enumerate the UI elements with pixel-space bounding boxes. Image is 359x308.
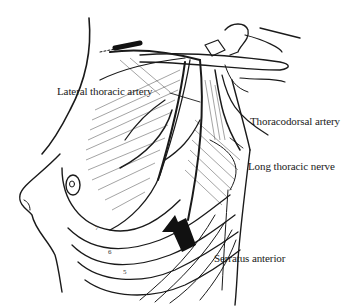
rib-number-5: 5 (123, 268, 127, 276)
rib-number-6: 6 (108, 248, 112, 256)
label-serratus-anterior: Serratus anterior (214, 252, 285, 264)
illustration-drawing (0, 0, 359, 308)
label-lateral-thoracic-artery: Lateral thoracic artery (57, 85, 152, 97)
rib-number-7: 7 (95, 224, 99, 232)
anatomy-illustration: Lateral thoracic artery Thoracodorsal ar… (0, 0, 359, 308)
label-thoracodorsal-artery: Thoracodorsal artery (250, 115, 340, 127)
arrow-icon (162, 215, 196, 252)
label-long-thoracic-nerve: Long thoracic nerve (248, 160, 335, 172)
